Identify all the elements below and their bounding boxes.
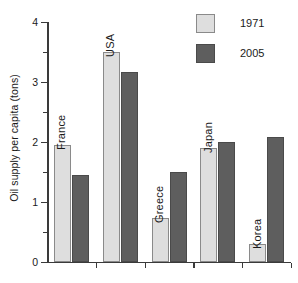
- y-tick-major: [41, 142, 47, 143]
- legend-item-2005: 2005: [196, 42, 264, 64]
- y-tick-major: [41, 82, 47, 83]
- y-tick-label: 4: [32, 16, 38, 28]
- category-label-japan: Japan: [202, 122, 214, 153]
- y-tick-major: [41, 202, 47, 203]
- legend-swatch-2005: [196, 44, 215, 63]
- y-tick-minor: [43, 52, 47, 53]
- y-tick-label: 2: [32, 136, 38, 148]
- y-axis-line: [47, 22, 49, 262]
- bar-france-2005: [72, 175, 89, 262]
- bar-greece-1971: [152, 218, 169, 262]
- y-tick-major: [41, 22, 47, 23]
- y-tick-label: 3: [32, 76, 38, 88]
- legend-item-1971: 1971: [196, 12, 264, 34]
- y-tick-minor: [43, 232, 47, 233]
- category-label-france: France: [55, 115, 67, 150]
- bar-usa-1971: [103, 52, 120, 262]
- y-tick-label: 1: [32, 196, 38, 208]
- chart-legend: 19712005: [196, 12, 264, 72]
- bar-usa-2005: [121, 72, 138, 262]
- x-separator: [96, 263, 97, 268]
- bar-korea-2005: [267, 137, 284, 262]
- x-separator: [145, 263, 146, 268]
- bar-chart: Oil supply per capita (tons) 01234 Franc…: [0, 0, 298, 283]
- x-separator: [291, 263, 292, 268]
- bar-france-1971: [54, 145, 71, 262]
- y-tick-minor: [43, 112, 47, 113]
- y-tick-label: 0: [32, 256, 38, 268]
- category-label-korea: Korea: [251, 219, 263, 249]
- y-tick-minor: [43, 172, 47, 173]
- bar-japan-1971: [200, 148, 217, 262]
- category-label-usa: USA: [104, 34, 116, 57]
- category-label-greece: Greece: [153, 186, 165, 223]
- bar-japan-2005: [218, 142, 235, 262]
- x-separator: [242, 263, 243, 268]
- legend-swatch-1971: [196, 14, 215, 33]
- legend-label-2005: 2005: [240, 47, 264, 59]
- x-separator: [193, 263, 194, 268]
- bar-greece-2005: [170, 172, 187, 262]
- legend-label-1971: 1971: [240, 17, 264, 29]
- y-axis-label: Oil supply per capita (tons): [8, 38, 20, 238]
- y-tick-major: [41, 262, 47, 263]
